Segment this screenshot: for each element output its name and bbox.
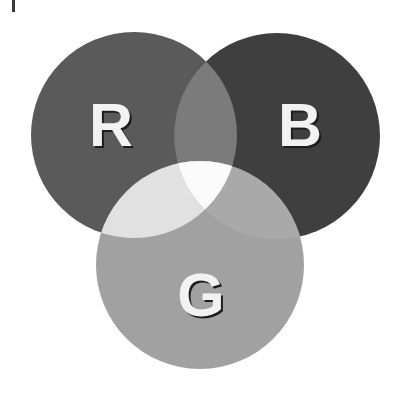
label-b-text: B <box>278 91 322 159</box>
label-r-text: R <box>89 91 133 159</box>
label-g: G G <box>177 261 226 331</box>
rgb-venn-diagram: R R B B G G <box>0 0 409 395</box>
label-g-text: G <box>177 261 224 329</box>
label-b: B B <box>278 91 324 161</box>
label-r: R R <box>89 91 135 161</box>
